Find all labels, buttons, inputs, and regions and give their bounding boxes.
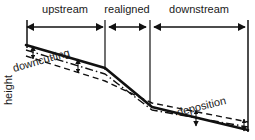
figure-root: upstream realigned downstream downcuttin…	[0, 0, 255, 140]
river-profile-diagram: upstream realigned downstream downcuttin…	[0, 0, 255, 140]
zone-label-downstream: downstream	[169, 3, 229, 15]
zone-label-upstream: upstream	[42, 3, 88, 15]
annotation-label-deposition: deposition	[176, 94, 228, 118]
y-axis-label-height: height	[2, 75, 14, 105]
zone-label-realigned: realigned	[104, 3, 149, 15]
profile-line-final-dashed	[26, 56, 248, 122]
profile-line-intermediate-dashdot	[26, 50, 248, 127]
